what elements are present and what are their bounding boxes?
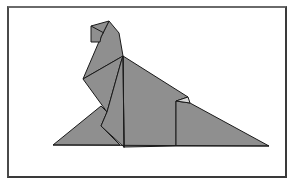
tail: [176, 101, 269, 146]
origami-seal-diagram: [0, 0, 292, 182]
